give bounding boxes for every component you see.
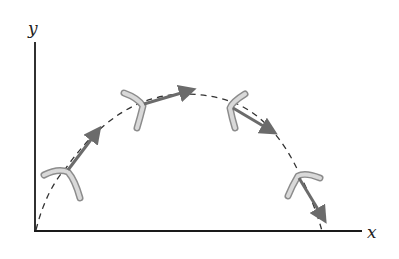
velocity-arrow-3 (233, 108, 270, 130)
boomerang-3 (230, 94, 270, 130)
velocity-arrow-4 (299, 178, 322, 216)
boomerang-4 (288, 174, 322, 216)
velocity-arrow-2 (144, 91, 188, 104)
x-axis-label: x (367, 222, 377, 242)
velocity-arrow-1 (68, 133, 96, 170)
y-axis-label: y (27, 18, 38, 38)
trajectory-path (36, 94, 322, 231)
projectile-diagram: y x (0, 0, 399, 259)
boomerang-2 (124, 91, 188, 128)
axes: y x (27, 18, 377, 242)
